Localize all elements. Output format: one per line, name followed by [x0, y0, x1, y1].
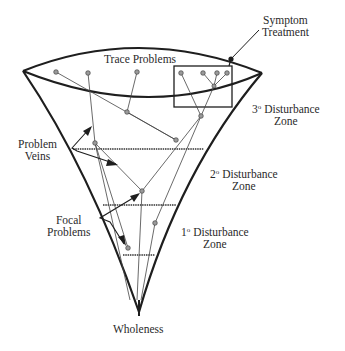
problem-veins-line1: Problem: [18, 138, 57, 150]
symptom-label-line2: Treatment: [262, 26, 309, 38]
zone1-line2: Zone: [181, 238, 249, 250]
zone2-line1: 2o Disturbance: [210, 166, 278, 180]
focal-problems-line2: Problems: [47, 226, 90, 238]
wholeness-label: Wholeness: [113, 323, 163, 335]
problem-veins: [56, 72, 227, 300]
trace-problems-label: Trace Problems: [104, 53, 176, 65]
focal-problems-label: Focal Problems: [47, 214, 90, 238]
problem-veins-line2: Veins: [18, 150, 57, 162]
funnel-right-side: [139, 73, 262, 312]
symptom-nodes: [179, 71, 230, 76]
trace-problem-nodes: [54, 70, 140, 76]
symptom-label-line1: Symptom: [262, 14, 309, 26]
symptom-pointer-dot: [228, 56, 233, 61]
funnel-left-side: [23, 71, 139, 312]
zone1-label: 1o Disturbance Zone: [181, 224, 249, 250]
zone2-line2: Zone: [210, 180, 278, 192]
symptom-treatment-label: Symptom Treatment: [262, 14, 309, 38]
zone3-line1: 3o Disturbance: [252, 101, 320, 115]
symptom-pointer-line: [231, 30, 259, 59]
zone3-line2: Zone: [252, 115, 320, 127]
zone3-label: 3o Disturbance Zone: [252, 101, 320, 127]
zone2-label: 2o Disturbance Zone: [210, 166, 278, 192]
problem-veins-label: Problem Veins: [18, 138, 57, 162]
focal-problems-line1: Focal: [47, 214, 90, 226]
arrowhead-icon: [130, 193, 140, 202]
zone1-line1: 1o Disturbance: [181, 224, 249, 238]
